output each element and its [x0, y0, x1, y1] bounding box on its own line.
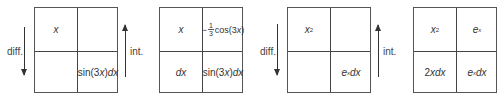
cell-v: ex	[456, 8, 498, 51]
up-arrow-icon	[378, 25, 379, 77]
cell-dv: exdx	[456, 51, 498, 94]
cell-du: dx	[160, 51, 202, 94]
cell-du: 2xdx	[414, 51, 456, 94]
up-arrow-icon	[125, 25, 126, 77]
diff-label-1: diff.	[7, 46, 23, 57]
down-arrow-icon	[24, 27, 25, 75]
cell-u: x2	[414, 8, 456, 51]
cell-du	[35, 51, 77, 94]
cell-dv: sin(3x)dx	[77, 51, 119, 94]
tabular-grid-ex1-step1: x sin(3x)dx	[34, 7, 118, 93]
cell-u: x2	[288, 8, 330, 51]
cell-dv: exdx	[330, 51, 372, 94]
tabular-grid-ex1-step2: x − 1 3 cos(3x) dx sin(3x)dx	[159, 7, 243, 93]
tabular-grid-ex2-step1: x2 exdx	[287, 7, 371, 93]
cell-v: − 1 3 cos(3x)	[202, 8, 244, 51]
down-arrow-icon	[277, 24, 278, 75]
int-label-2: int.	[383, 46, 396, 57]
cell-v	[330, 8, 372, 51]
cell-u: x	[160, 8, 202, 51]
int-label-1: int.	[130, 46, 143, 57]
cell-dv: sin(3x)dx	[202, 51, 244, 94]
cell-du	[288, 51, 330, 94]
diff-label-2: diff.	[260, 46, 276, 57]
fraction: 1 3	[208, 22, 214, 37]
cell-u: x	[35, 8, 77, 51]
cell-v	[77, 8, 119, 51]
tabular-grid-ex2-step2: x2 ex 2xdx exdx	[413, 7, 497, 93]
